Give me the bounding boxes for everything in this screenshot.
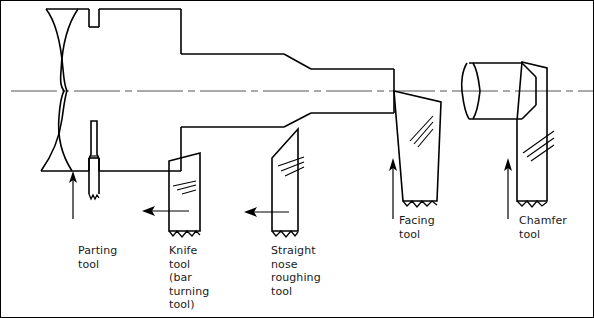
roughing-tool-hatching [278,157,304,176]
roughing-tool-break [272,231,298,237]
main-workpiece [41,9,394,171]
knife-tool-break [169,231,200,237]
knife-tool-body [169,153,200,231]
label-chamfer-tool: Chamfer tool [519,214,567,241]
roughing-tool-feed-arrow [244,207,289,217]
chamfer-tool [504,62,554,219]
break-line-left-inner [59,9,78,171]
facing-tool [389,91,441,219]
facing-tool-body [394,91,441,201]
taper-top [284,54,311,69]
roughing-tool-body [272,129,298,231]
knife-tool-hatching [173,181,196,194]
chamfer-tool-hatching [523,131,554,161]
taper-bottom [284,113,311,127]
straight-nose-roughing-tool [244,129,304,237]
parting-tool-break [89,194,99,199]
chamfer-tool-feed-arrow [504,158,512,219]
right-chamfer-bottom [522,105,536,119]
label-parting-tool: Parting tool [78,244,117,271]
label-knife-tool: Knife tool (bar turning tool) [169,244,209,312]
parting-tool [69,121,99,219]
facing-tool-break [403,201,437,207]
chamfer-tool-break [517,201,547,207]
label-facing-tool: Facing tool [399,214,435,241]
diagram-page: Parting tool Knife tool (bar turning too… [0,0,594,318]
label-straight-nose-roughing-tool: Straight nose roughing tool [271,244,321,298]
facing-tool-feed-arrow [389,158,397,219]
chamfer-tool-body [517,62,547,201]
knife-tool [142,153,200,237]
knife-tool-feed-arrow [142,206,189,216]
parting-tool-feed-arrow [69,171,77,219]
facing-tool-hatching [410,116,433,147]
